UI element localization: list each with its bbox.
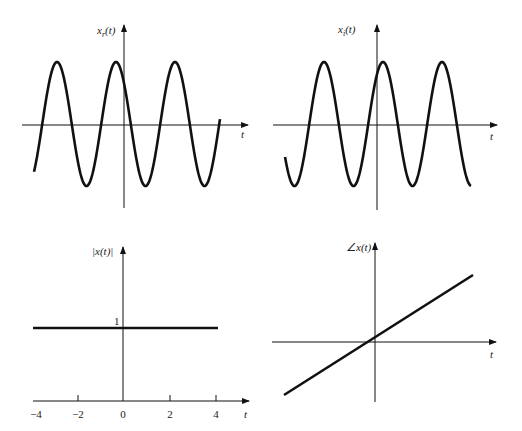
xtick-minus4: −4 bbox=[30, 408, 42, 420]
figure-canvas: xr(t) t xi(t) t 1 −4 −2 0 2 4 |x(t)| t ∠… bbox=[0, 0, 522, 431]
x-axis-label: t bbox=[490, 130, 494, 142]
y-axis-label: ∠x(t) bbox=[346, 241, 372, 254]
x-axis-label: t bbox=[490, 348, 494, 360]
ytick-1: 1 bbox=[114, 315, 120, 327]
imag-part-curve bbox=[285, 62, 471, 186]
y-axis-label: xr(t) bbox=[96, 24, 116, 39]
panel-real-part: xr(t) t bbox=[22, 24, 248, 208]
y-axis-label: xi(t) bbox=[337, 23, 356, 38]
xtick-4: 4 bbox=[213, 408, 219, 420]
real-part-curve bbox=[34, 62, 220, 186]
xtick-0: 0 bbox=[120, 408, 126, 420]
panel-magnitude: 1 −4 −2 0 2 4 |x(t)| t bbox=[30, 245, 249, 420]
xtick-2: 2 bbox=[167, 408, 173, 420]
xtick-minus2: −2 bbox=[72, 408, 84, 420]
x-axis-label: t bbox=[244, 408, 248, 420]
phase-line bbox=[284, 275, 473, 395]
x-axis-label: t bbox=[241, 128, 245, 140]
panel-phase: ∠x(t) t bbox=[272, 241, 496, 402]
y-axis-label: |x(t)| bbox=[92, 245, 113, 258]
panel-imag-part: xi(t) t bbox=[273, 23, 497, 210]
